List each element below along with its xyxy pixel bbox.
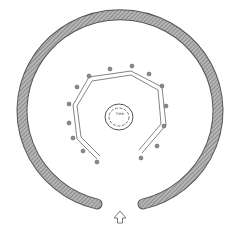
center-label: tree	[110, 111, 130, 116]
site-plan-diagram	[0, 0, 240, 236]
entrance-arrow-icon	[114, 211, 126, 223]
central-structure	[105, 104, 133, 130]
